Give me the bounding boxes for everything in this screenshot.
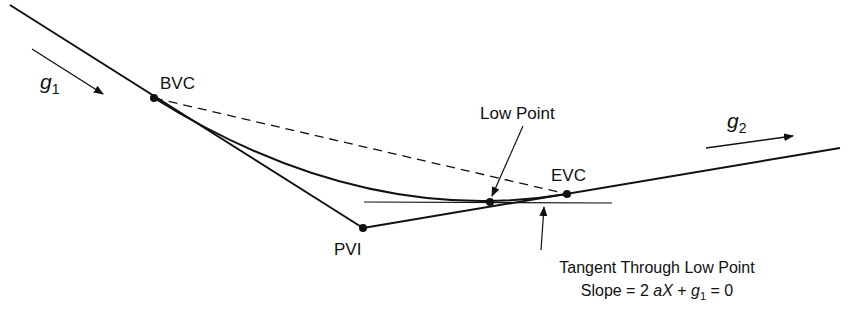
g2-label: g2	[727, 109, 747, 136]
evc-point	[563, 190, 571, 198]
evc-label: EVC	[551, 166, 586, 185]
g2-arrow-icon	[706, 136, 793, 148]
low-point-leader-arrow-icon	[492, 126, 523, 196]
pvi-label: PVI	[334, 240, 361, 259]
bvc-point	[150, 94, 158, 102]
low-point-label: Low Point	[480, 104, 555, 123]
g1-label: g1	[40, 70, 60, 97]
tangent-leader-arrow-icon	[541, 207, 544, 250]
vertical-curve-diagram: BVC PVI EVC Low Point g1 g2 Tangent Thro…	[0, 0, 851, 310]
pvi-point	[359, 224, 367, 232]
bvc-label: BVC	[160, 74, 195, 93]
slope-equation: Slope = 2 aX + g1 = 0	[581, 282, 734, 302]
low-point	[486, 198, 494, 206]
tangent-caption: Tangent Through Low Point	[559, 259, 755, 276]
grade-line-g2	[363, 148, 840, 228]
